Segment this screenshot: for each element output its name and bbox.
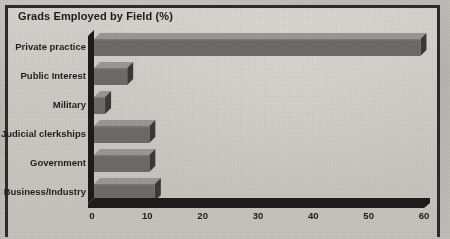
x-axis-tick-30: 30: [253, 210, 264, 221]
bar-private-practice: [94, 33, 426, 56]
x-axis-tick-20: 20: [197, 210, 208, 221]
bar-government: [94, 149, 155, 172]
x-axis-baseline: [88, 198, 430, 208]
y-axis-label-public-interest: Public Interest: [0, 70, 86, 81]
bar-public-interest: [94, 62, 133, 85]
y-axis-label-business-industry: Business/Industry: [0, 186, 86, 197]
y-axis-label-private-practice: Private practice: [0, 41, 86, 52]
y-axis-label-military: Military: [0, 99, 86, 110]
x-axis-tick-0: 0: [89, 210, 94, 221]
x-axis-tick-50: 50: [363, 210, 374, 221]
chart-page: Grads Employed by Field (%) Private prac…: [0, 0, 450, 239]
bar-business-industry: [94, 178, 161, 201]
y-axis-label-government: Government: [0, 157, 86, 168]
bar-judicial-clerkships: [94, 120, 155, 143]
x-axis-tick-60: 60: [419, 210, 430, 221]
bar-chart-svg: [0, 0, 450, 239]
y-axis-label-judicial-clerkships: Judicial clerkships: [0, 128, 86, 139]
x-axis-tick-40: 40: [308, 210, 319, 221]
y-axis-spine: [88, 30, 94, 204]
x-axis-tick-10: 10: [142, 210, 153, 221]
bar-military: [94, 91, 111, 114]
